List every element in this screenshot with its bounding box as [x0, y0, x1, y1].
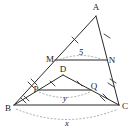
- tick-am-1: [72, 37, 78, 43]
- geometry-canvas: A B C M N D P Q 5 y x: [0, 0, 133, 132]
- vertex-label-n: N: [109, 55, 116, 65]
- measure-label-mn: 5: [79, 47, 83, 57]
- vertex-label-a: A: [93, 2, 100, 12]
- vertex-label-q: Q: [91, 81, 98, 91]
- vertex-label-m: M: [46, 54, 54, 64]
- measure-label-bc: x: [64, 118, 69, 128]
- tick-dq-1: [77, 81, 82, 86]
- tick-an-1: [104, 34, 110, 38]
- vertex-label-d: D: [60, 64, 67, 74]
- geometry-figure: A B C M N D P Q 5 y x: [0, 0, 133, 132]
- vertex-label-b: B: [5, 103, 11, 113]
- vertex-label-c: C: [122, 101, 128, 111]
- vertex-label-p: P: [33, 84, 38, 94]
- measure-label-pq: y: [62, 93, 67, 103]
